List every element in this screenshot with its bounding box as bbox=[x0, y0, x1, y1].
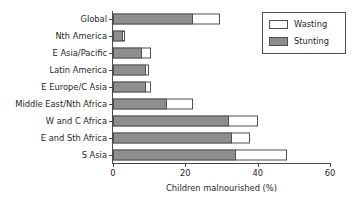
x-axis-line bbox=[112, 163, 331, 164]
category-label: E and Sth Africa bbox=[41, 134, 107, 142]
legend-label-stunting: Stunting bbox=[294, 37, 329, 45]
stacked-bar bbox=[113, 81, 151, 92]
category-label: Global bbox=[81, 15, 107, 23]
bar-segment-stunting bbox=[113, 149, 236, 160]
bar-row: E Europe/C Asia bbox=[113, 79, 330, 96]
bar-row: S Asia bbox=[113, 146, 330, 163]
bar-segment-stunting bbox=[113, 65, 146, 76]
stacked-bar bbox=[113, 65, 149, 76]
bar-segment-wasting bbox=[192, 14, 220, 25]
category-label: Nth America bbox=[55, 32, 107, 40]
bar-segment-wasting bbox=[141, 48, 151, 59]
x-axis-tick bbox=[258, 163, 259, 167]
legend-swatch-stunting bbox=[269, 37, 288, 46]
stacked-bar bbox=[113, 149, 287, 160]
bar-row: Middle East/Nth Africa bbox=[113, 95, 330, 112]
stacked-bar bbox=[113, 98, 193, 109]
category-label: Middle East/Nth Africa bbox=[15, 100, 107, 108]
x-axis-tick bbox=[113, 163, 114, 167]
stacked-bar bbox=[113, 31, 125, 42]
bar-segment-stunting bbox=[113, 14, 193, 25]
stacked-bar bbox=[113, 132, 250, 143]
stacked-bar bbox=[113, 115, 258, 126]
bar-segment-wasting bbox=[235, 149, 287, 160]
legend-item-stunting: Stunting bbox=[269, 35, 339, 48]
bar-row: W and C Africa bbox=[113, 112, 330, 129]
bar-chart: GlobalNth AmericaE Asia/PacificLatin Ame… bbox=[0, 0, 356, 203]
legend-swatch-wasting bbox=[269, 20, 288, 29]
x-axis-tick bbox=[185, 163, 186, 167]
legend-label-wasting: Wasting bbox=[294, 20, 327, 28]
bar-segment-wasting bbox=[228, 115, 258, 126]
bar-row: Latin America bbox=[113, 62, 330, 79]
bar-segment-stunting bbox=[113, 48, 142, 59]
x-axis-title: Children malnourished (%) bbox=[113, 184, 330, 192]
x-axis-tick-label: 40 bbox=[252, 169, 263, 177]
bar-segment-stunting bbox=[113, 132, 232, 143]
bar-segment-wasting bbox=[145, 65, 150, 76]
stacked-bar bbox=[113, 48, 151, 59]
stacked-bar bbox=[113, 14, 220, 25]
category-label: E Asia/Pacific bbox=[53, 49, 107, 57]
chart-legend: Wasting Stunting bbox=[262, 12, 346, 54]
x-axis-tick-label: 60 bbox=[325, 169, 336, 177]
category-label: E Europe/C Asia bbox=[41, 83, 107, 91]
bar-segment-stunting bbox=[113, 98, 167, 109]
bar-segment-stunting bbox=[113, 115, 229, 126]
bar-segment-wasting bbox=[122, 31, 125, 42]
x-axis-tick bbox=[330, 163, 331, 167]
legend-item-wasting: Wasting bbox=[269, 18, 339, 31]
x-axis-tick-label: 0 bbox=[110, 169, 115, 177]
category-label: W and C Africa bbox=[46, 117, 107, 125]
bar-segment-stunting bbox=[113, 81, 146, 92]
bar-segment-wasting bbox=[145, 81, 151, 92]
bar-row: E and Sth Africa bbox=[113, 129, 330, 146]
category-label: Latin America bbox=[50, 66, 107, 74]
bar-segment-wasting bbox=[231, 132, 250, 143]
x-axis-tick-label: 20 bbox=[180, 169, 191, 177]
category-label: S Asia bbox=[82, 150, 107, 158]
bar-segment-wasting bbox=[166, 98, 192, 109]
